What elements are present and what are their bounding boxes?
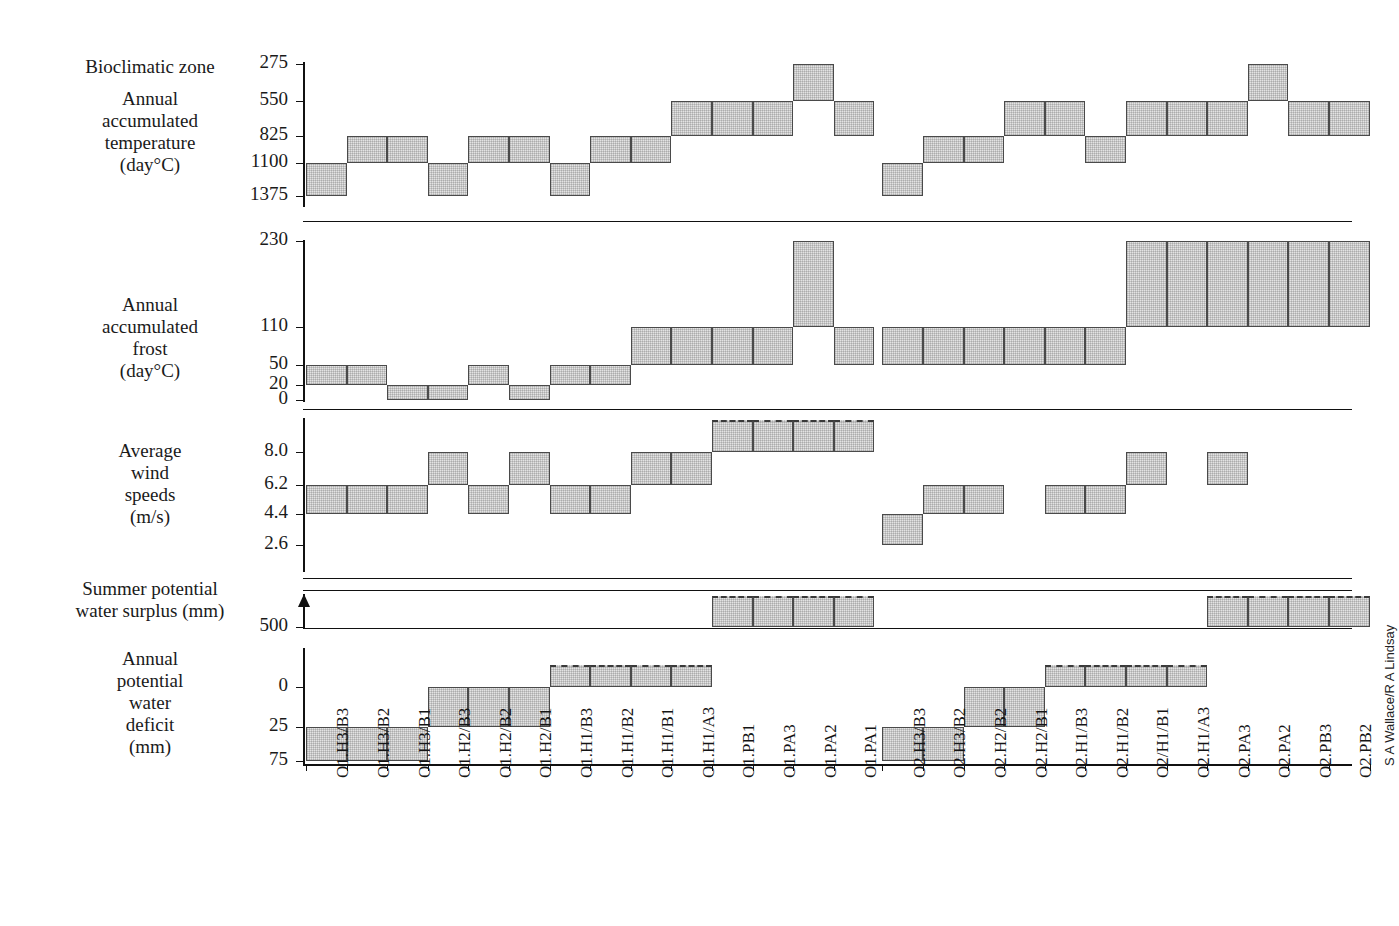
y-tick-label: 230 bbox=[198, 228, 288, 250]
band-bar bbox=[550, 485, 591, 514]
credit-text: S A Wallace/R A Lindsay bbox=[1382, 625, 1397, 766]
band-bar bbox=[1126, 665, 1167, 687]
up-arrow-icon bbox=[298, 594, 310, 607]
x-axis-category-label: O1.H3/B1 bbox=[415, 708, 435, 778]
x-axis-category-label: O2.PA2 bbox=[1275, 724, 1295, 778]
band-bar bbox=[1045, 101, 1086, 136]
band-bar bbox=[882, 327, 923, 365]
x-tick-mark bbox=[509, 764, 510, 771]
x-axis-category-label: O1.H3/B3 bbox=[333, 708, 353, 778]
band-bar bbox=[1248, 596, 1289, 627]
y-axis-annual-potential-water-deficit bbox=[303, 648, 305, 764]
x-axis-category-label: O2.H1/B2 bbox=[1113, 708, 1133, 778]
band-bar bbox=[1248, 241, 1289, 327]
x-tick-mark bbox=[1126, 764, 1127, 771]
band-bar bbox=[1045, 665, 1086, 687]
band-bar bbox=[1288, 241, 1329, 327]
band-bar bbox=[671, 327, 712, 365]
x-axis-category-label: O2.H1/A3 bbox=[1194, 707, 1214, 778]
band-bar bbox=[347, 136, 388, 163]
x-axis-category-label: O2.H3/B3 bbox=[910, 708, 930, 778]
x-axis-category-label: O1.PB1 bbox=[739, 724, 759, 778]
band-bar bbox=[1248, 64, 1289, 101]
y-tick-label: 50 bbox=[198, 352, 288, 374]
y-axis-bioclimatic-zone bbox=[303, 62, 305, 207]
y-tick-mark bbox=[296, 485, 303, 486]
band-bar bbox=[834, 327, 875, 365]
band-bar bbox=[387, 385, 428, 400]
panel-label-annual-potential-water-deficit: Annualpotentialwaterdeficit(mm) bbox=[30, 648, 270, 758]
band-bar bbox=[631, 452, 672, 485]
x-tick-mark bbox=[1207, 764, 1208, 771]
y-axis-annual-accumulated-frost bbox=[303, 240, 305, 402]
x-tick-mark bbox=[550, 764, 551, 771]
band-bar bbox=[793, 64, 834, 101]
y-tick-label: 75 bbox=[198, 748, 288, 770]
x-axis-category-label: O2.PB2 bbox=[1356, 724, 1376, 778]
band-bar bbox=[509, 385, 550, 400]
band-bar bbox=[793, 241, 834, 327]
band-bar bbox=[428, 163, 469, 196]
x-tick-mark bbox=[631, 764, 632, 771]
band-bar bbox=[712, 327, 753, 365]
x-tick-mark bbox=[712, 764, 713, 771]
band-bar bbox=[631, 327, 672, 365]
x-tick-mark bbox=[590, 764, 591, 771]
x-axis-category-label: O2.PB3 bbox=[1316, 724, 1336, 778]
y-tick-mark bbox=[296, 452, 303, 453]
y-tick-mark bbox=[296, 136, 303, 137]
label-line: Summer potential bbox=[30, 578, 270, 600]
x-tick-mark bbox=[387, 764, 388, 771]
y-tick-label: 1100 bbox=[198, 150, 288, 172]
y-tick-mark bbox=[296, 687, 303, 688]
band-bar bbox=[1004, 327, 1045, 365]
band-bar bbox=[1126, 101, 1167, 136]
x-axis-category-label: O2/H1/B1 bbox=[1153, 707, 1173, 778]
x-tick-mark bbox=[753, 764, 754, 771]
band-bar bbox=[964, 136, 1005, 163]
x-axis-category-label: O1.PA1 bbox=[861, 724, 881, 778]
x-tick-mark bbox=[1329, 764, 1330, 771]
band-bar bbox=[1085, 327, 1126, 365]
band-bar bbox=[1085, 665, 1126, 687]
x-axis-category-label: O1.PA3 bbox=[780, 724, 800, 778]
band-bar bbox=[882, 163, 923, 196]
band-bar bbox=[923, 327, 964, 365]
x-axis-category-label: O1.H2/B3 bbox=[455, 708, 475, 778]
band-bar bbox=[631, 665, 672, 687]
band-bar bbox=[347, 365, 388, 385]
band-bar bbox=[1004, 101, 1045, 136]
band-bar bbox=[590, 136, 631, 163]
band-bar bbox=[753, 420, 794, 452]
band-bar bbox=[1207, 596, 1248, 627]
band-bar bbox=[1085, 485, 1126, 514]
x-tick-mark bbox=[1248, 764, 1249, 771]
x-tick-mark bbox=[923, 764, 924, 771]
y-tick-label: 8.0 bbox=[198, 439, 288, 461]
band-bar bbox=[1329, 101, 1370, 136]
band-bar bbox=[387, 485, 428, 514]
band-bar bbox=[631, 136, 672, 163]
band-bar bbox=[1167, 101, 1208, 136]
band-bar bbox=[306, 163, 347, 196]
x-tick-mark bbox=[882, 764, 883, 771]
band-bar bbox=[509, 136, 550, 163]
y-tick-label: 550 bbox=[198, 88, 288, 110]
y-tick-mark bbox=[296, 385, 303, 386]
panel-separator bbox=[303, 578, 1352, 579]
band-bar bbox=[964, 327, 1005, 365]
y-tick-mark bbox=[296, 163, 303, 164]
y-tick-label: 275 bbox=[198, 51, 288, 73]
y-tick-mark bbox=[296, 545, 303, 546]
band-bar bbox=[753, 596, 794, 627]
x-axis-category-label: O2.H2/B1 bbox=[1032, 708, 1052, 778]
band-bar bbox=[1288, 101, 1329, 136]
band-bar bbox=[306, 365, 347, 385]
band-bar bbox=[550, 163, 591, 196]
band-bar bbox=[550, 665, 591, 687]
y-tick-mark bbox=[296, 327, 303, 328]
y-tick-label: 1375 bbox=[198, 183, 288, 205]
band-bar bbox=[1207, 241, 1248, 327]
band-bar bbox=[671, 101, 712, 136]
band-bar bbox=[753, 101, 794, 136]
